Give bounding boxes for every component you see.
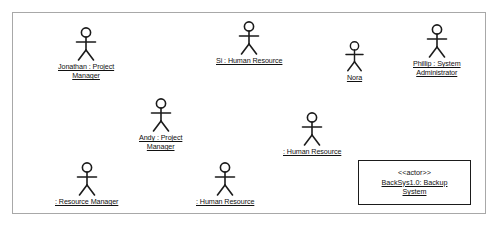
actor-label-line: Manager [58, 71, 114, 80]
stick-figure-actor-icon [146, 98, 176, 132]
actor-label-si: Si : Human Resource [216, 56, 282, 65]
actor-label-line: Nora [347, 73, 362, 82]
actor-human-resource-mid[interactable]: : Human Resource [283, 112, 341, 156]
actor-label-line: : Human Resource [283, 147, 341, 156]
actor-label-human-resource-bottom: : Human Resource [196, 197, 254, 206]
actor-nora[interactable]: Nora [341, 41, 368, 82]
actor-label-jonathan: Jonathan : ProjectManager [58, 62, 114, 81]
backup-system-name-line: System [382, 187, 448, 196]
stereotype-label: <<actor>> [398, 168, 431, 177]
backup-system-name: BackSys1.0: BackupSystem [382, 178, 448, 197]
actor-label-line: Phillip : System [413, 59, 461, 68]
stick-figure-actor-icon [71, 27, 101, 61]
actor-label-human-resource-mid: : Human Resource [283, 147, 341, 156]
stick-figure-actor-icon [341, 41, 368, 72]
stick-figure-actor-icon [297, 112, 327, 146]
actor-label-line: Jonathan : Project [58, 62, 114, 71]
actor-andy[interactable]: Andy : ProjectManager [139, 98, 182, 152]
actor-label-line: Manager [139, 142, 182, 151]
actor-label-line: Andy : Project [139, 133, 182, 142]
actor-label-nora: Nora [347, 73, 362, 82]
actor-label-andy: Andy : ProjectManager [139, 133, 182, 152]
actor-label-line: : Human Resource [196, 197, 254, 206]
actor-label-phillip: Phillip : SystemAdministrator [413, 59, 461, 78]
actor-human-resource-bottom[interactable]: : Human Resource [196, 162, 254, 206]
actor-label-line: Si : Human Resource [216, 56, 282, 65]
actor-resource-manager[interactable]: : Resource Manager [55, 162, 118, 206]
actor-phillip[interactable]: Phillip : SystemAdministrator [413, 24, 461, 78]
actor-label-line: Administrator [413, 68, 461, 77]
stick-figure-actor-icon [234, 21, 264, 55]
uml-actor-diagram: Jonathan : ProjectManagerSi : Human Reso… [0, 0, 500, 229]
backup-system-name-line: BackSys1.0: Backup [382, 178, 448, 187]
stick-figure-actor-icon [72, 162, 102, 196]
stick-figure-actor-icon [422, 24, 452, 58]
actor-label-line: : Resource Manager [55, 197, 118, 206]
actor-label-resource-manager: : Resource Manager [55, 197, 118, 206]
backup-system-actor-box[interactable]: <<actor>> BackSys1.0: BackupSystem [358, 160, 471, 205]
stick-figure-actor-icon [210, 162, 240, 196]
actor-si[interactable]: Si : Human Resource [216, 21, 282, 65]
actor-jonathan[interactable]: Jonathan : ProjectManager [58, 27, 114, 81]
